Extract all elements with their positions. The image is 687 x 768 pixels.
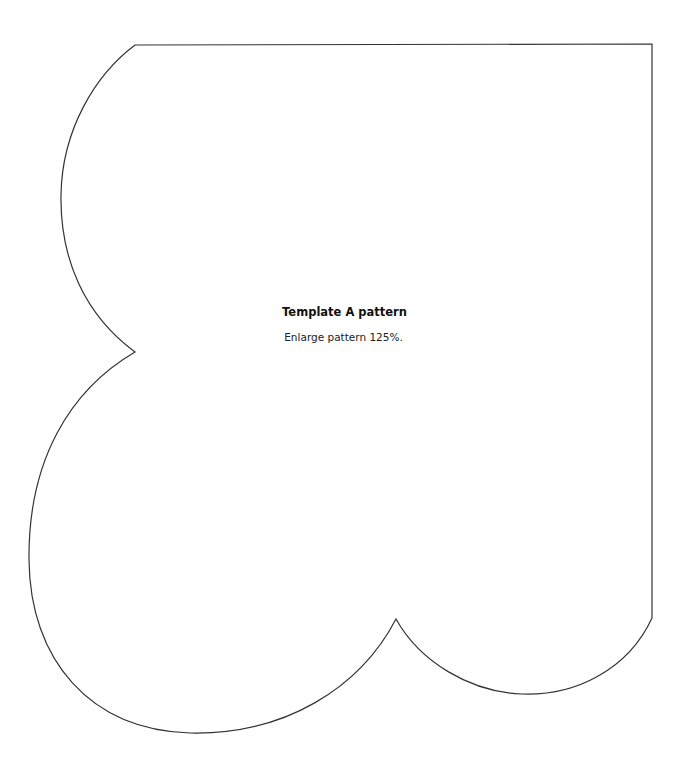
enlarge-instruction: Enlarge pattern 125%.	[0, 331, 687, 343]
pattern-outline	[0, 0, 687, 768]
pattern-title: Template A pattern	[0, 305, 687, 319]
template-shape	[29, 44, 652, 733]
